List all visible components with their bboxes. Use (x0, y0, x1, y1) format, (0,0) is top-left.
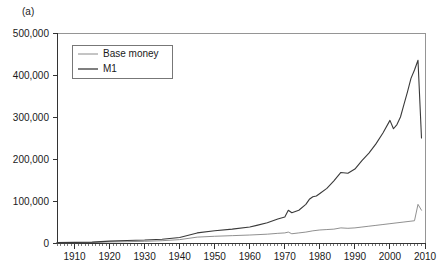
x-axis-tick-labels: 1910192019301940195019601970198019902000… (63, 251, 436, 262)
y-axis-tick-labels: 0100,000200,000300,000400,000500,000 (13, 28, 50, 249)
y-tick-label: 200,000 (13, 154, 50, 165)
y-tick-label: 100,000 (13, 196, 50, 207)
x-tick-label: 1980 (309, 251, 332, 262)
x-tick-label: 1990 (344, 251, 367, 262)
x-tick-label: 1950 (204, 251, 227, 262)
legend-label-base-money: Base money (103, 48, 159, 59)
x-tick-label: 1920 (98, 251, 121, 262)
y-axis-ticks (53, 33, 57, 243)
legend-label-m1: M1 (103, 63, 117, 74)
x-tick-label: 1910 (63, 251, 86, 262)
x-tick-label: 1960 (239, 251, 262, 262)
x-tick-label: 2010 (414, 251, 437, 262)
y-tick-label: 400,000 (13, 70, 50, 81)
series-line-m1 (57, 60, 422, 242)
x-tick-label: 2000 (379, 251, 402, 262)
x-tick-label: 1970 (274, 251, 297, 262)
y-tick-label: 500,000 (13, 28, 50, 39)
y-tick-label: 300,000 (13, 112, 50, 123)
series-line-base-money (57, 204, 422, 242)
x-tick-label: 1940 (169, 251, 192, 262)
y-tick-label: 0 (43, 238, 49, 249)
line-chart: 0100,000200,000300,000400,000500,000 191… (0, 0, 446, 276)
chart-legend: Base moneyM1 (72, 45, 172, 78)
x-tick-label: 1930 (133, 251, 156, 262)
figure-panel-a: (a) 0100,000200,000300,000400,000500,000… (0, 0, 446, 276)
series-lines (57, 60, 422, 242)
